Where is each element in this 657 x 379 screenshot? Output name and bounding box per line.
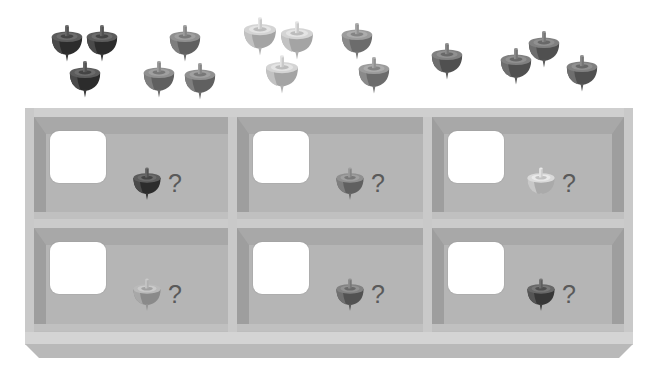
reference-top-icon	[130, 274, 164, 316]
shelf-divider-vertical-2	[423, 117, 432, 332]
scene: ??????	[0, 0, 657, 379]
shelf-cell[interactable]: ?	[432, 117, 624, 219]
answer-box[interactable]	[448, 131, 504, 183]
cell-floor	[34, 212, 228, 219]
cell-left-sidewall	[34, 228, 46, 331]
shelf-frame-top	[25, 108, 633, 117]
scattered-top[interactable]	[355, 52, 393, 95]
scattered-top[interactable]	[525, 26, 563, 69]
question-mark: ?	[562, 171, 576, 196]
cell-prompt: ?	[333, 163, 385, 205]
cell-floor	[34, 324, 228, 331]
scattered-top[interactable]	[181, 58, 219, 101]
answer-box[interactable]	[50, 131, 106, 183]
shelf-cell[interactable]: ?	[237, 228, 423, 331]
cell-left-sidewall	[432, 117, 444, 219]
answer-box[interactable]	[50, 242, 106, 294]
cell-prompt: ?	[130, 163, 182, 205]
question-mark: ?	[371, 171, 385, 196]
cell-floor	[432, 324, 624, 331]
question-mark: ?	[371, 282, 385, 307]
cell-floor	[237, 212, 423, 219]
scattered-top[interactable]	[428, 38, 466, 81]
scattered-tops-area	[0, 0, 657, 105]
shelf-divider-vertical-1	[228, 117, 237, 332]
cell-prompt: ?	[524, 274, 576, 316]
shelf-divider-horizontal	[34, 219, 624, 228]
answer-box[interactable]	[448, 242, 504, 294]
cell-left-sidewall	[237, 228, 249, 331]
cell-left-sidewall	[432, 228, 444, 331]
cell-right-sidewall	[612, 228, 624, 331]
reference-top-icon	[333, 274, 367, 316]
reference-top-icon	[130, 163, 164, 205]
shelf-frame-left	[25, 108, 34, 340]
cell-floor	[237, 324, 423, 331]
answer-box[interactable]	[253, 131, 309, 183]
shelf-frame-right	[624, 108, 633, 340]
reference-top-icon	[333, 163, 367, 205]
cell-floor	[432, 212, 624, 219]
scattered-top[interactable]	[66, 56, 104, 99]
shelf-body: ??????	[25, 108, 633, 340]
cell-prompt: ?	[524, 163, 576, 205]
shelf-cell[interactable]: ?	[237, 117, 423, 219]
shelf-grid: ??????	[25, 108, 633, 360]
cell-prompt: ?	[130, 274, 182, 316]
scattered-top[interactable]	[262, 50, 302, 95]
question-mark: ?	[168, 282, 182, 307]
shelf-base-top	[25, 332, 633, 345]
scattered-top[interactable]	[140, 56, 178, 99]
cell-prompt: ?	[333, 274, 385, 316]
shelf-cell[interactable]: ?	[432, 228, 624, 331]
shelf-cell[interactable]: ?	[34, 228, 228, 331]
shelf-cell[interactable]: ?	[34, 117, 228, 219]
answer-box[interactable]	[253, 242, 309, 294]
cell-right-sidewall	[612, 117, 624, 219]
question-mark: ?	[562, 282, 576, 307]
reference-top-icon	[524, 163, 558, 205]
scattered-top[interactable]	[563, 50, 601, 93]
question-mark: ?	[168, 171, 182, 196]
cell-left-sidewall	[237, 117, 249, 219]
reference-top-icon	[524, 274, 558, 316]
cell-left-sidewall	[34, 117, 46, 219]
shelf-base-front	[25, 344, 633, 358]
